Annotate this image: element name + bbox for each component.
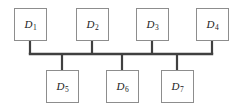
- node-box-d6[interactable]: D6: [106, 70, 139, 103]
- node-label-d5: D5: [56, 81, 68, 92]
- node-box-d5[interactable]: D5: [46, 70, 79, 103]
- node-box-d4[interactable]: D4: [196, 8, 229, 41]
- node-label-d2: D2: [86, 19, 98, 30]
- node-label-subscript-d3: 3: [155, 23, 159, 32]
- node-label-d7: D7: [171, 81, 183, 92]
- node-label-subscript-d7: 7: [180, 85, 184, 94]
- node-box-d3[interactable]: D3: [136, 8, 169, 41]
- node-box-d2[interactable]: D2: [76, 8, 109, 41]
- node-label-d1: D1: [24, 19, 36, 30]
- node-label-subscript-d5: 5: [65, 85, 69, 94]
- node-label-d4: D4: [206, 19, 218, 30]
- bus-topology-diagram: D1D2D3D4D5D6D7: [0, 0, 242, 109]
- node-box-d1[interactable]: D1: [14, 8, 47, 41]
- node-label-subscript-d4: 4: [215, 23, 219, 32]
- node-label-d3: D3: [146, 19, 158, 30]
- node-box-d7[interactable]: D7: [161, 70, 194, 103]
- node-label-subscript-d2: 2: [95, 23, 99, 32]
- node-label-subscript-d6: 6: [125, 85, 129, 94]
- node-label-subscript-d1: 1: [33, 23, 37, 32]
- node-label-d6: D6: [116, 81, 128, 92]
